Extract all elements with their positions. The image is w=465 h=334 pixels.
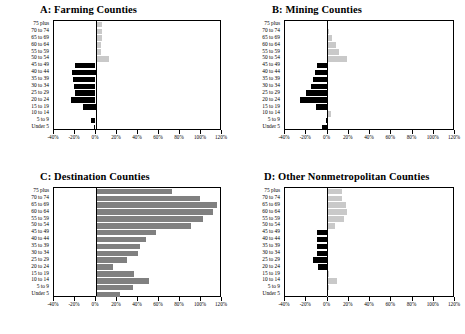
x-axis-label: 20% — [343, 301, 353, 307]
bar — [96, 189, 173, 195]
bar — [96, 196, 201, 202]
y-axis-label: 30 to 34 — [0, 82, 51, 89]
y-axis-label: Under 5 — [0, 123, 51, 130]
bar — [96, 264, 114, 270]
x-tick — [369, 297, 370, 301]
x-axis-label: 80% — [174, 301, 184, 307]
panel-b-zero-axis — [327, 21, 328, 129]
bar — [327, 49, 339, 55]
y-axis-label: 60 to 64 — [0, 41, 51, 48]
x-tick — [200, 297, 201, 301]
bar — [96, 285, 133, 291]
panel-d-zero-axis — [327, 188, 328, 296]
x-axis-label: -20% — [68, 301, 79, 307]
bar — [317, 244, 328, 250]
bar — [313, 77, 327, 83]
x-axis-label: -40% — [47, 134, 58, 140]
bar-row — [54, 277, 220, 284]
bar-row — [54, 49, 220, 56]
y-axis-label: 40 to 44 — [232, 68, 282, 75]
y-axis-label: 45 to 49 — [0, 61, 51, 68]
x-axis-label: 60% — [153, 301, 163, 307]
bar-row — [285, 188, 453, 195]
y-axis-label: 20 to 24 — [232, 96, 282, 103]
bar — [316, 104, 327, 110]
panel-d-plot-area — [284, 187, 454, 297]
bar-row — [285, 195, 453, 202]
y-axis-label: 55 to 59 — [0, 215, 51, 222]
x-tick — [116, 297, 117, 301]
bar-row — [54, 271, 220, 278]
x-axis-label: 0% — [323, 134, 330, 140]
bar-row — [285, 222, 453, 229]
bar-row — [54, 188, 220, 195]
bar-row — [285, 236, 453, 243]
bar-row — [54, 257, 220, 264]
x-tick — [116, 130, 117, 134]
bar — [96, 237, 147, 243]
x-tick — [327, 297, 328, 301]
bar — [96, 223, 191, 229]
bar — [317, 230, 327, 236]
bar — [96, 278, 150, 284]
y-axis-label: 55 to 59 — [232, 215, 282, 222]
x-tick — [284, 130, 285, 134]
y-axis-label: 75 plus — [232, 20, 282, 27]
y-axis-label: 70 to 74 — [232, 194, 282, 201]
bar — [74, 84, 96, 90]
y-axis-label: 50 to 54 — [232, 221, 282, 228]
bar — [83, 104, 96, 110]
y-axis-label: 30 to 34 — [232, 249, 282, 256]
x-tick — [454, 297, 455, 301]
bar — [311, 84, 327, 90]
x-tick — [158, 297, 159, 301]
bar — [72, 70, 95, 76]
bar-row — [54, 243, 220, 250]
x-tick — [95, 297, 96, 301]
x-tick — [53, 130, 54, 134]
bar-row — [285, 110, 453, 117]
y-axis-label: 45 to 49 — [0, 228, 51, 235]
bar-row — [285, 216, 453, 223]
panel-d-y-axis-labels: 75 plus70 to 7465 to 6960 to 6455 to 595… — [232, 187, 282, 297]
y-axis-label: 55 to 59 — [232, 48, 282, 55]
y-axis-label: 35 to 39 — [0, 242, 51, 249]
y-axis-label: 60 to 64 — [232, 41, 282, 48]
panel-b-y-axis-labels: 75 plus70 to 7465 to 6960 to 6455 to 595… — [232, 20, 282, 130]
bar-row — [54, 42, 220, 49]
bar — [96, 257, 127, 263]
x-axis-label: 20% — [343, 134, 353, 140]
y-axis-label: 15 to 19 — [232, 270, 282, 277]
x-tick — [95, 130, 96, 134]
y-axis-label: 35 to 39 — [232, 75, 282, 82]
y-axis-label: 45 to 49 — [232, 61, 282, 68]
panel-b-bars — [285, 21, 453, 129]
bar-row — [285, 28, 453, 35]
x-axis-label: 20% — [111, 301, 121, 307]
y-axis-label: 75 plus — [232, 187, 282, 194]
bar-row — [285, 271, 453, 278]
panel-a-title: A: Farming Counties — [40, 4, 137, 15]
y-axis-label: Under 5 — [232, 290, 282, 297]
x-axis-label: 60% — [385, 134, 395, 140]
y-axis-label: 60 to 64 — [232, 208, 282, 215]
x-tick — [433, 297, 434, 301]
x-tick — [305, 297, 306, 301]
bar — [73, 77, 95, 83]
y-axis-label: 25 to 29 — [232, 256, 282, 263]
bar — [327, 196, 342, 202]
bar — [96, 216, 204, 222]
bar — [71, 97, 96, 103]
y-axis-label: 35 to 39 — [0, 75, 51, 82]
x-tick — [74, 297, 75, 301]
x-tick — [348, 297, 349, 301]
bar — [96, 230, 156, 236]
y-axis-label: 30 to 34 — [0, 249, 51, 256]
y-axis-label: 65 to 69 — [0, 34, 51, 41]
bar-row — [285, 97, 453, 104]
x-tick — [412, 130, 413, 134]
bar — [96, 22, 103, 28]
bar-row — [285, 243, 453, 250]
x-axis-label: 100% — [427, 301, 439, 307]
bar-row — [54, 97, 220, 104]
